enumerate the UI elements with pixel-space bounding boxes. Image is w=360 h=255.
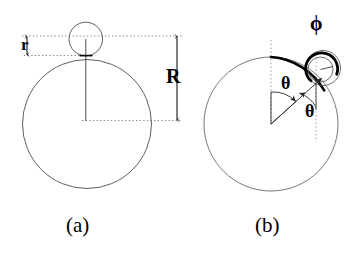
theta-center-wedge-b <box>271 92 297 124</box>
large-circle-a <box>23 60 152 189</box>
label-angle-phi: ϕ <box>310 13 322 33</box>
theta-center-arc-b <box>271 92 296 102</box>
panel-a-figure <box>22 22 182 188</box>
caption-panel-b: (b) <box>255 215 280 236</box>
label-radius-large: R <box>166 66 180 86</box>
figure-root: r R ϕ θ θ (a) (b) <box>0 0 360 255</box>
label-radius-small: r <box>21 36 29 53</box>
label-angle-theta-contact: θ <box>305 102 314 120</box>
small-radius-line-b <box>321 67 334 70</box>
label-angle-theta-center: θ <box>281 74 290 92</box>
figure-canvas <box>0 0 360 255</box>
panel-b-figure <box>204 40 341 191</box>
caption-panel-a: (a) <box>66 215 89 236</box>
